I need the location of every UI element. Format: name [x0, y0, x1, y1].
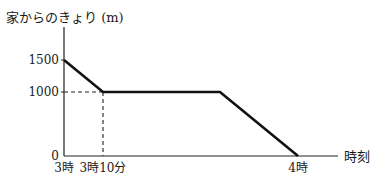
x-tick-label: 3時10分 [80, 161, 127, 175]
x-tick-label: 4時 [288, 161, 308, 175]
y-tick-label: 1500 [28, 53, 59, 67]
x-tick-label: 3時 [54, 161, 74, 175]
x-axis-label: 時刻 [344, 149, 370, 164]
y-axis-label: 家からのきょり (m) [6, 10, 124, 25]
distance-series-line [64, 60, 298, 156]
distance-time-chart: 家からのきょり (m) 時刻 150010000 3時3時10分4時 [0, 0, 386, 182]
y-tick-label: 1000 [28, 85, 59, 99]
